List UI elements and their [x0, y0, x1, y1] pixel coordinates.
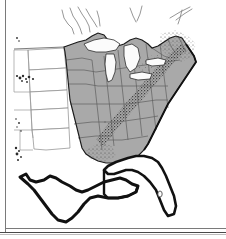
point-marker [26, 81, 28, 83]
point-marker [21, 80, 23, 82]
us-map-svg [0, 0, 226, 239]
point-marker [18, 40, 20, 42]
point-marker [19, 77, 22, 80]
point-marker [16, 37, 18, 39]
frame-border-bottom-middle [0, 232, 226, 233]
state-north-dakota [28, 48, 66, 70]
frame-border-bottom-inner [5, 228, 226, 229]
point-marker [16, 153, 19, 156]
point-marker [18, 150, 20, 152]
point-marker [15, 147, 17, 149]
point-marker [20, 156, 22, 158]
point-marker [15, 118, 17, 120]
state-nebraska [30, 90, 68, 110]
point-marker [22, 75, 24, 77]
state-oklahoma [32, 128, 70, 150]
map-figure: Outline map of the contiguous United Sta… [0, 0, 226, 239]
state-south-dakota [29, 68, 67, 92]
lake-okeechobee [158, 191, 162, 197]
point-marker [28, 76, 31, 79]
state-kansas [31, 108, 69, 130]
point-marker [32, 78, 34, 80]
frame-border-left [5, 0, 6, 232]
point-marker [17, 159, 19, 161]
point-marker [16, 126, 17, 127]
point-marker [18, 122, 20, 124]
point-marker [16, 75, 18, 77]
frame-border-bottom-outer [0, 234, 226, 235]
lake-erie [130, 72, 152, 80]
lake-ontario [146, 58, 166, 66]
point-marker [20, 130, 22, 132]
point-marker [25, 78, 27, 80]
